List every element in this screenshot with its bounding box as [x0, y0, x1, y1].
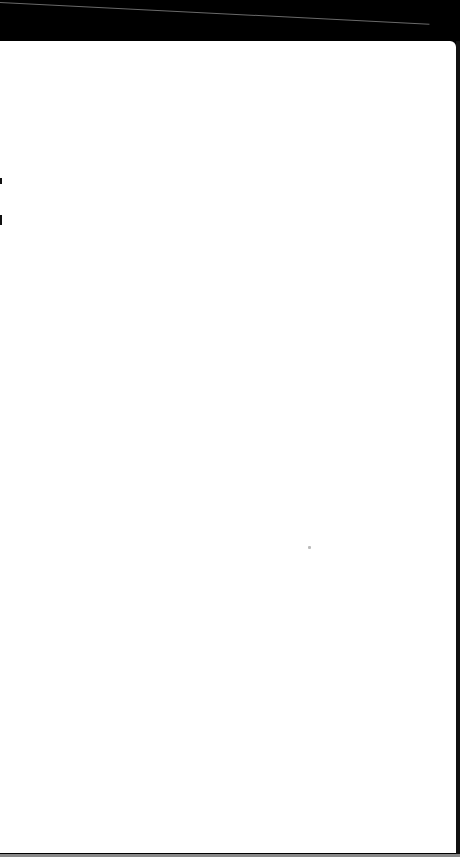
blank-screen: [0, 41, 456, 853]
dust-speck: [308, 546, 311, 549]
right-bezel: [456, 41, 460, 857]
top-bezel: [0, 0, 460, 42]
edge-mark: [0, 215, 2, 225]
edge-mark: [0, 178, 2, 184]
glare-line: [0, 2, 429, 25]
